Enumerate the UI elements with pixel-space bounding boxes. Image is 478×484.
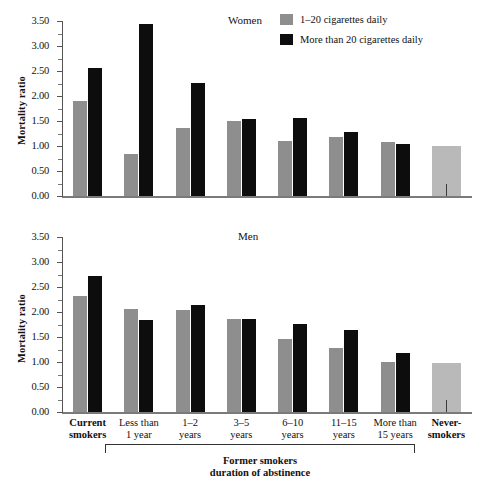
y-axis-tick-minor [58,300,62,301]
bar-light-cigarettes [176,128,190,196]
y-axis-tick-minor [58,275,62,276]
y-axis-tick-label: 1.00 [15,141,49,151]
y-axis-tick-label: 1.50 [15,332,49,342]
y-axis-tick-label: 3.50 [15,16,49,26]
bar-light-cigarettes [73,296,87,413]
bar-heavy-cigarettes [344,330,358,413]
bar-heavy-cigarettes [242,319,256,413]
bar-light-cigarettes [227,121,241,197]
y-axis-tick-label: 0.00 [15,407,49,417]
y-axis-tick-label: 3.00 [15,257,49,267]
y-axis-tick-minor [58,159,62,160]
y-axis-tick-minor [58,134,62,135]
y-axis-tick-major [57,337,63,338]
bar-light-cigarettes [73,101,87,196]
y-axis-tick-label: 2.00 [15,307,49,317]
bar-heavy-cigarettes [88,68,102,196]
y-axis-label-women: Mortality ratio [16,76,27,145]
legend-swatch-light [280,14,293,25]
y-axis-tick-major [57,171,63,172]
y-axis-tick-major [57,46,63,47]
y-axis-tick-label: 1.50 [15,116,49,126]
y-axis-tick-major [57,237,63,238]
bar-light-cigarettes [278,141,292,197]
bar-heavy-cigarettes [139,24,153,196]
legend-item-light: 1–20 cigarettes daily [280,14,387,25]
y-axis-label-men: Mortality ratio [16,294,27,363]
bracket-caption-line1: Former smokers [105,455,415,467]
bar-light-cigarettes [176,310,190,413]
bar-light-cigarettes [381,362,395,412]
bar-heavy-cigarettes [88,276,102,412]
bar-heavy-cigarettes [191,305,205,412]
bar-light-cigarettes [227,319,241,412]
y-axis-tick-minor [58,34,62,35]
x-axis-baseline [62,412,472,414]
category-label-line2: smokers [412,429,478,441]
never-smokers-reference-tick [446,184,447,196]
y-axis-tick-major [57,387,63,388]
bar-heavy-cigarettes [396,144,410,196]
legend-label-light: 1–20 cigarettes daily [300,14,387,25]
y-axis-tick-minor [58,325,62,326]
y-axis-tick-label: 3.50 [15,232,49,242]
y-axis-tick-minor [58,109,62,110]
legend-label-dark: More than 20 cigarettes daily [300,34,423,45]
y-axis-tick-minor [58,375,62,376]
y-axis-tick-label: 2.00 [15,91,49,101]
y-axis-tick-major [57,121,63,122]
bar-light-cigarettes [124,309,138,413]
y-axis-tick-major [57,287,63,288]
y-axis-tick-label: 0.50 [15,166,49,176]
legend-item-dark: More than 20 cigarettes daily [280,34,423,45]
y-axis-tick-major [57,21,63,22]
panel-women: Mortality ratio Women 1–20 cigarettes da… [0,0,478,210]
y-axis-tick-label: 2.50 [15,282,49,292]
y-axis-tick-major [57,262,63,263]
bar-light-cigarettes [381,142,395,197]
y-axis-tick-label: 3.00 [15,41,49,51]
bar-heavy-cigarettes [191,83,205,197]
y-axis-tick-minor [58,184,62,185]
never-smokers-reference-tick [446,400,447,412]
x-axis-category-8: Never-smokers [412,417,478,440]
y-axis-tick-minor [58,350,62,351]
y-axis-tick-major [57,196,63,197]
y-axis-tick-major [57,96,63,97]
bar-heavy-cigarettes [293,118,307,197]
y-axis-tick-major [57,146,63,147]
y-axis-tick-major [57,71,63,72]
former-smokers-bracket [105,444,415,453]
y-axis-tick-major [57,312,63,313]
bar-heavy-cigarettes [344,132,358,196]
y-axis-tick-major [57,362,63,363]
y-axis-tick-minor [58,59,62,60]
y-axis-tick-label: 0.50 [15,382,49,392]
bar-light-cigarettes [124,154,138,196]
y-axis-tick-major [57,412,63,413]
bracket-caption: Former smokers duration of abstinence [105,455,415,479]
y-axis-tick-minor [58,400,62,401]
x-axis-baseline [62,196,472,198]
y-axis-tick-minor [58,84,62,85]
category-label-line1: Never- [412,417,478,429]
bar-heavy-cigarettes [396,353,410,412]
bar-light-cigarettes [329,348,343,412]
y-axis-tick-minor [58,250,62,251]
bar-heavy-cigarettes [293,324,307,413]
chart-figure: Mortality ratio Women 1–20 cigarettes da… [0,0,478,484]
bar-heavy-cigarettes [242,119,256,197]
y-axis-tick-label: 1.00 [15,357,49,367]
bar-light-cigarettes [329,137,343,196]
y-axis-tick-label: 2.50 [15,66,49,76]
y-axis-tick-label: 0.00 [15,191,49,201]
bracket-caption-line2: duration of abstinence [105,467,415,479]
bar-heavy-cigarettes [139,320,153,413]
panel-men: Mortality ratio Men 3.503.002.502.001.50… [0,218,478,418]
bar-light-cigarettes [278,339,292,412]
legend-swatch-dark [280,34,293,45]
